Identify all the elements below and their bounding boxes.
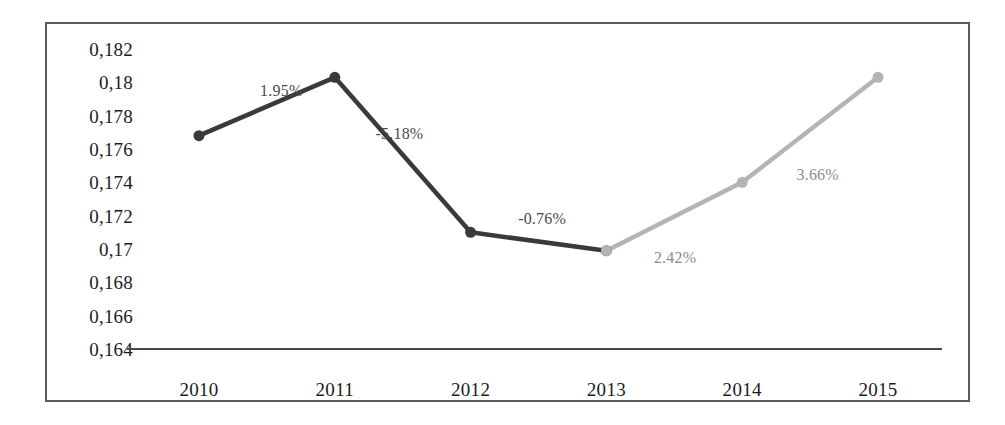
line-series-layer xyxy=(47,24,972,404)
data-point-marker xyxy=(194,130,205,141)
data-value-label: 2.42% xyxy=(654,249,696,267)
data-point-marker xyxy=(601,245,612,256)
data-value-label: 1.95% xyxy=(260,82,302,100)
data-value-label: -5.18% xyxy=(376,125,424,143)
data-point-marker xyxy=(737,177,748,188)
chart-frame: 0,1820,180,1780,1760,1740,1720,170,1680,… xyxy=(45,22,970,402)
data-value-label: 3.66% xyxy=(797,166,839,184)
data-point-marker xyxy=(873,72,884,83)
data-point-marker xyxy=(465,227,476,238)
data-point-marker xyxy=(329,72,340,83)
plot-area: 0,1820,180,1780,1760,1740,1720,170,1680,… xyxy=(47,24,968,400)
data-value-label: -0.76% xyxy=(518,210,566,228)
line-series-light-segment xyxy=(606,77,878,250)
